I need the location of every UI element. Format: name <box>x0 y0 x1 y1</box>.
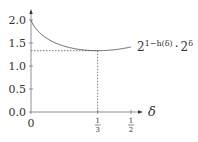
y-tick-label-1.5: 1.5 <box>9 37 27 50</box>
x-tick-label-one-third: 1 3 <box>95 117 101 134</box>
svg-text:1: 1 <box>129 117 133 125</box>
x-tick-label-0: 0 <box>28 117 35 130</box>
x-axis-arrow-icon <box>138 110 143 113</box>
y-axis-arrow-icon <box>29 9 32 14</box>
y-tick-label-0.0: 0.0 <box>9 106 27 119</box>
x-axis-label: δ <box>148 104 156 119</box>
x-tick-label-one-half: 1 2 <box>128 117 134 134</box>
curve-label: 21−h(δ)·2δ <box>137 39 193 54</box>
chart-canvas: 2.0 1.5 1.0 0.5 0.0 0 1 3 1 2 δ 21−h(δ)·… <box>0 0 198 142</box>
y-tick-label-0.5: 0.5 <box>9 83 27 96</box>
y-tick-label-1.0: 1.0 <box>9 60 27 73</box>
function-curve <box>31 20 131 51</box>
svg-text:3: 3 <box>95 126 99 134</box>
y-tick-label-2.0: 2.0 <box>9 14 27 27</box>
svg-text:1: 1 <box>95 117 99 125</box>
svg-text:2: 2 <box>129 126 133 134</box>
